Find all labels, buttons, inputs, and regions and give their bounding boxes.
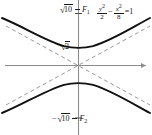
leader-dash bbox=[75, 9, 80, 10]
sqrt-group-vertex: √2 bbox=[60, 43, 70, 52]
vertex-upper-label: √2 bbox=[60, 43, 70, 52]
focus-upper-subscript: 1 bbox=[87, 9, 90, 15]
y-term-fraction: y2 2 bbox=[97, 3, 107, 21]
sqrt-group-lower: √10 bbox=[57, 115, 71, 124]
vertex-upper-value: 2 bbox=[65, 41, 70, 51]
equation-label: y2 2 − x2 8 =1 bbox=[96, 3, 133, 21]
focus-lower-label: −√10F2 bbox=[52, 115, 87, 124]
x-term-denominator: 8 bbox=[114, 14, 124, 21]
focus-upper-value: 10 bbox=[64, 4, 73, 14]
y-term-denominator: 2 bbox=[97, 14, 107, 21]
minus-operator: − bbox=[108, 7, 113, 16]
hyperbola-lower-branch bbox=[2, 83, 150, 113]
sqrt-group-upper: √10 bbox=[59, 6, 73, 15]
focus-upper-label: √10F1 bbox=[59, 6, 90, 15]
hyperbola-figure: √10F1 −√10F2 √2 y2 2 − x2 8 =1 bbox=[0, 0, 152, 135]
x-term-fraction: x2 8 bbox=[114, 3, 124, 21]
equation-rhs: 1 bbox=[129, 7, 133, 16]
leader-dash bbox=[72, 118, 77, 119]
y-exponent: 2 bbox=[102, 3, 105, 9]
focus-lower-subscript: 2 bbox=[84, 118, 87, 124]
hyperbola-upper-branch bbox=[2, 18, 150, 48]
x-exponent: 2 bbox=[119, 3, 122, 9]
focus-lower-value: 10 bbox=[61, 113, 70, 123]
